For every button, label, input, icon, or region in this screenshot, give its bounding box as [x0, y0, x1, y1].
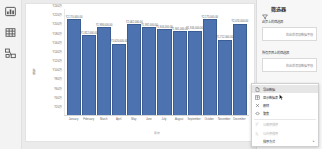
x-axis-tick-label: December	[232, 116, 247, 128]
y-axis: ¥240万¥220万¥200万¥180万¥160万¥140万¥120万¥100万…	[37, 6, 63, 116]
y-axis-title: 销售额	[32, 69, 36, 75]
filters-pane-header: 筛选器	[262, 5, 317, 12]
bar[interactable]	[67, 19, 81, 116]
filters-on-this-page-label: 此页上的筛选器	[262, 19, 317, 24]
power-bi-window: 销售额 ¥240万¥220万¥200万¥180万¥160万¥140万¥120万¥…	[0, 0, 322, 149]
bar-data-label: ¥1,712,000.00	[217, 36, 234, 39]
bar-slot[interactable]: ¥1,712,000.00	[218, 9, 232, 116]
context-menu-item-label: 以降序排序	[263, 122, 315, 127]
bar-data-label: ¥1,812,000.00	[81, 32, 98, 35]
x-axis-tick-label: July	[156, 116, 171, 128]
y-axis-tick-label: ¥200万	[53, 22, 62, 26]
bar-slot[interactable]: ¥2,062,000.00	[127, 9, 141, 116]
context-menu-item[interactable]: 显示数据表	[252, 93, 318, 101]
bar[interactable]	[142, 27, 156, 116]
context-menu-item-label: 排序方式	[263, 139, 310, 144]
x-axis-tick-label: October	[202, 116, 217, 128]
y-axis-tick-label: ¥240万	[53, 4, 62, 8]
bar-slot[interactable]: ¥1,944,000.00	[157, 9, 171, 116]
context-menu-item: 以升序排序	[252, 129, 318, 137]
bar-series: ¥2,170,000.00¥1,812,000.00¥1,986,000.00¥…	[65, 9, 249, 116]
y-axis-tick-label: ¥140万	[53, 50, 62, 54]
filters-on-this-page-group: 此页上的筛选器 在此处添加数据字段	[262, 19, 317, 41]
y-axis-tick-label: ¥20万	[54, 105, 62, 109]
bar-data-label: ¥1,986,000.00	[96, 24, 113, 27]
context-menu-item-label: 删除	[263, 103, 315, 108]
x-axis: JanuaryFebruaryMarchAprilMayJuneJulyAugu…	[64, 116, 249, 128]
bar-slot[interactable]: ¥1,905,000.00	[173, 9, 187, 116]
report-view-icon[interactable]	[5, 6, 16, 17]
context-menu-item[interactable]: 删除	[252, 101, 318, 109]
filters-on-all-pages-placeholder: 在此处添加数据字段	[286, 63, 313, 68]
context-menu-item-label: 以升序排序	[263, 131, 315, 136]
x-axis-tick-label: January	[66, 116, 81, 128]
bar[interactable]	[82, 35, 96, 116]
y-axis-tick-label: ¥220万	[53, 13, 62, 17]
bar[interactable]	[188, 31, 202, 116]
show-as-table-icon	[255, 95, 260, 100]
bar-slot[interactable]: ¥2,175,000.00	[203, 9, 217, 116]
data-view-icon[interactable]	[5, 27, 16, 38]
visual-context-menu[interactable]: 导出数据显示数据表删除聚焦以降序排序以升序排序排序方式▸	[251, 83, 319, 147]
sort-descending-icon	[255, 122, 260, 127]
y-axis-tick-label: ¥100万	[53, 68, 62, 72]
bar-slot[interactable]: ¥1,916,000.00	[188, 9, 202, 116]
filters-pane-title: 筛选器	[271, 5, 287, 12]
y-axis-tick-label: ¥60万	[54, 87, 62, 91]
y-axis-tick-label: ¥80万	[54, 77, 62, 81]
filters-on-this-page-placeholder: 在此处添加数据字段	[286, 32, 313, 37]
no-icon	[255, 139, 260, 144]
chart-plot-wrapper: 销售额 ¥240万¥220万¥200万¥180万¥160万¥140万¥120万¥…	[30, 6, 251, 138]
bar[interactable]	[173, 31, 187, 116]
export-data-icon	[255, 87, 260, 92]
model-view-icon[interactable]	[5, 48, 16, 59]
context-menu-item-label: 导出数据	[263, 87, 315, 92]
bar[interactable]	[203, 19, 217, 116]
report-page: 销售额 ¥240万¥220万¥200万¥180万¥160万¥140万¥120万¥…	[25, 3, 255, 142]
bar-slot[interactable]: ¥1,812,000.00	[82, 9, 96, 116]
bar[interactable]	[157, 29, 171, 116]
x-axis-tick-label: August	[172, 116, 187, 128]
bar-data-label: ¥2,175,000.00	[201, 16, 218, 19]
context-menu-item-label: 显示数据表	[263, 95, 315, 100]
x-axis-tick-label: September	[187, 116, 202, 128]
context-menu-item-label: 聚焦	[263, 111, 315, 116]
plot-area: ¥2,170,000.00¥1,812,000.00¥1,986,000.00¥…	[64, 9, 249, 116]
bar[interactable]	[218, 40, 232, 116]
bar[interactable]	[97, 27, 111, 116]
bar-chart-visual[interactable]: 销售额 ¥240万¥220万¥200万¥180万¥160万¥140万¥120万¥…	[26, 4, 254, 141]
bar-data-label: ¥2,074,000.00	[232, 20, 249, 23]
funnel-icon	[262, 6, 268, 12]
bar-data-label: ¥2,170,000.00	[66, 16, 83, 19]
context-menu-item[interactable]: 导出数据	[252, 85, 318, 93]
context-menu-separator	[254, 119, 316, 120]
filters-on-all-pages-dropzone[interactable]: 在此处添加数据字段	[262, 58, 317, 72]
bar-data-label: ¥1,916,000.00	[186, 27, 203, 30]
x-axis-tick-label: April	[111, 116, 126, 128]
bar-slot[interactable]: ¥2,074,000.00	[233, 9, 247, 116]
context-menu-item[interactable]: 排序方式▸	[252, 137, 318, 145]
x-axis-tick-label: March	[96, 116, 111, 128]
context-menu-item[interactable]: 聚焦	[252, 110, 318, 118]
y-axis-tick-label: ¥120万	[53, 59, 62, 63]
filters-on-all-pages-label: 所有页面上的筛选器	[262, 50, 317, 55]
x-axis-tick-label: May	[126, 116, 141, 128]
remove-icon	[255, 103, 260, 108]
filters-on-this-page-dropzone[interactable]: 在此处添加数据字段	[262, 27, 317, 41]
bar-slot[interactable]: ¥1,992,000.00	[142, 9, 156, 116]
y-axis-tick-label: ¥160万	[53, 41, 62, 45]
bar-data-label: ¥1,620,000.00	[111, 40, 128, 43]
bar-slot[interactable]: ¥2,170,000.00	[67, 9, 81, 116]
x-axis-title: 月份	[64, 131, 249, 135]
bar-slot[interactable]: ¥1,986,000.00	[97, 9, 111, 116]
spotlight-icon	[255, 111, 260, 116]
y-axis-tick-label: ¥180万	[53, 32, 62, 36]
x-axis-tick-label: June	[141, 116, 156, 128]
y-axis-tick-label: ¥40万	[54, 96, 62, 100]
bar[interactable]	[127, 24, 141, 116]
bar[interactable]	[112, 44, 126, 116]
left-nav-rail	[0, 0, 22, 149]
bar[interactable]	[233, 24, 247, 116]
bar-slot[interactable]: ¥1,620,000.00	[112, 9, 126, 116]
x-axis-tick-label: February	[81, 116, 96, 128]
